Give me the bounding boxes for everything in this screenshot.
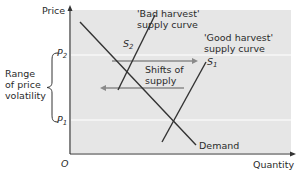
s1-subscript: 1 (213, 61, 217, 69)
range-line-2: of price (5, 79, 46, 90)
bad-harvest-line-2: supply curve (137, 19, 200, 30)
p2-label: P2 (57, 47, 67, 62)
range-label: Range of price volatility (5, 68, 46, 101)
bad-harvest-line-1: 'Bad harvest' (137, 8, 200, 19)
good-harvest-line-2: supply curve (204, 43, 273, 54)
range-line-3: volatility (5, 90, 46, 101)
shifts-of-supply-label: Shifts of supply (145, 64, 184, 86)
range-line-1: Range (5, 68, 46, 79)
range-brace-icon (47, 53, 58, 122)
x-axis-label: Quantity (253, 159, 294, 170)
good-harvest-label: 'Good harvest' supply curve (204, 32, 273, 54)
good-harvest-line-1: 'Good harvest' (204, 32, 273, 43)
shifts-line-2: supply (145, 75, 184, 86)
origin-label: O (61, 158, 68, 169)
demand-label: Demand (199, 140, 239, 151)
shifts-line-1: Shifts of (145, 64, 184, 75)
p1-subscript: 1 (63, 119, 67, 127)
s2-label: S2 (123, 38, 134, 53)
y-axis-label: Price (42, 5, 65, 16)
bad-harvest-label: 'Bad harvest' supply curve (137, 8, 200, 30)
s2-subscript: 2 (129, 43, 133, 51)
p2-subscript: 2 (63, 52, 67, 60)
p1-label: P1 (57, 114, 67, 129)
s1-label: S1 (207, 56, 218, 71)
